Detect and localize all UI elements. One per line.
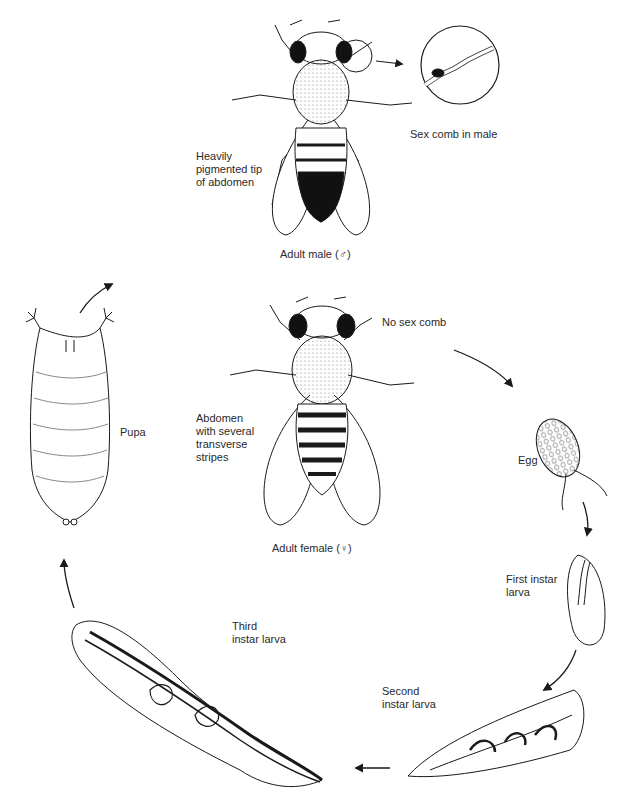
pupa-illustration xyxy=(26,308,114,525)
label-third-instar: Third instar larva xyxy=(232,620,286,646)
egg-illustration xyxy=(528,413,607,510)
label-adult-female: Adult female (♀) xyxy=(272,542,352,555)
arrow-female-to-egg xyxy=(454,350,512,386)
label-adult-male: Adult male (♂) xyxy=(280,248,351,261)
label-egg: Egg xyxy=(518,454,538,467)
label-no-sex-comb: No sex comb xyxy=(382,316,446,329)
sex-comb-magnified xyxy=(421,26,499,104)
arrow-pupa-to-adult xyxy=(80,284,112,313)
label-first-instar: First instar larva xyxy=(506,573,557,599)
zoom-arrow xyxy=(376,61,402,64)
label-sex-comb-male: Sex comb in male xyxy=(410,128,497,141)
arrow-first-to-second xyxy=(544,650,576,690)
label-male-abdomen: Heavily pigmented tip of abdomen xyxy=(196,150,262,189)
label-second-instar: Second instar larva xyxy=(382,685,436,711)
label-pupa: Pupa xyxy=(120,426,146,439)
life-cycle-illustration xyxy=(0,0,626,796)
adult-female-fly xyxy=(230,297,414,525)
arrow-egg-to-first xyxy=(583,502,588,535)
arrow-third-to-pupa xyxy=(64,560,74,608)
first-instar-larva xyxy=(568,555,605,645)
label-female-abdomen: Abdomen with several transverse stripes xyxy=(196,412,254,464)
adult-male-fly xyxy=(232,20,412,235)
